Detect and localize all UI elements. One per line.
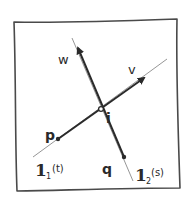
intersection-i-marker bbox=[99, 107, 104, 112]
label-l2-sub: 2 bbox=[146, 177, 151, 186]
label-l1: 1 1 (t) bbox=[35, 160, 64, 181]
point-p-dot bbox=[56, 137, 60, 141]
point-q-dot bbox=[122, 155, 126, 159]
vector-w bbox=[78, 48, 124, 157]
label-l2-param: (s) bbox=[151, 167, 164, 178]
label-v: v bbox=[128, 62, 136, 77]
label-p: p bbox=[45, 127, 55, 143]
label-l1-sub: 1 bbox=[46, 172, 51, 181]
label-l2: 1 2 (s) bbox=[135, 165, 164, 186]
label-l1-param: (t) bbox=[52, 163, 64, 174]
label-q: q bbox=[102, 161, 112, 177]
label-w: w bbox=[58, 52, 69, 67]
label-i: i bbox=[106, 110, 111, 126]
diagram-canvas: w v i p q 1 1 (t) 1 2 (s) bbox=[0, 0, 190, 202]
